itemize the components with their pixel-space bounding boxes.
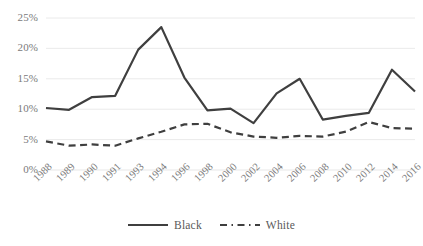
plot-area xyxy=(0,0,423,246)
series-lines xyxy=(46,27,415,146)
legend-entry-white: White xyxy=(220,219,295,231)
chart-legend: BlackWhite xyxy=(0,219,423,231)
series-line-white xyxy=(46,122,415,146)
legend-entry-black: Black xyxy=(128,219,202,231)
y-axis-tick-label: 10% xyxy=(4,102,38,114)
legend-label: White xyxy=(266,219,295,231)
y-axis-tick-label: 20% xyxy=(4,41,38,53)
solid-line-swatch xyxy=(128,220,168,230)
y-axis-tick-label: 5% xyxy=(4,133,38,145)
y-axis-tick-label: 25% xyxy=(4,11,38,23)
dashed-line-swatch xyxy=(220,220,260,230)
line-chart: 0%5%10%15%20%25% 19881989199019911993199… xyxy=(0,0,423,246)
y-axis-tick-label: 15% xyxy=(4,72,38,84)
gridlines xyxy=(46,18,415,170)
legend-label: Black xyxy=(174,219,202,231)
